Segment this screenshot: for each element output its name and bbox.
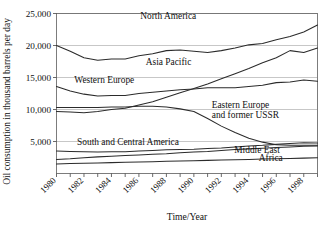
ytick-label-20000: 20,000	[26, 41, 52, 51]
series-label-africa: Africa	[259, 153, 284, 163]
xtick-label-1986: 1986	[121, 175, 141, 195]
xtick-label-1990: 1990	[175, 175, 195, 195]
ytick-label-25000: 25,000	[26, 9, 52, 19]
xtick-label-1996: 1996	[258, 175, 278, 195]
xtick-label-1988: 1988	[148, 175, 168, 195]
y-axis-title: Oil consumption in thousand barrels per …	[2, 18, 12, 185]
series-label-eastern-europe-line2: and former USSR	[212, 110, 280, 120]
xtick-label-1984: 1984	[93, 175, 113, 195]
xtick-label-1998: 1998	[285, 175, 305, 195]
series-label-western-europe: Western Europe	[74, 75, 134, 85]
xtick-label-1982: 1982	[66, 175, 86, 195]
xtick-label-1994: 1994	[230, 175, 250, 195]
ytick-label-5000: 5,000	[30, 137, 51, 147]
series-label-north-america: North America	[140, 11, 197, 21]
series-line-north-america	[57, 25, 318, 60]
series-label-south-and-central-america: South and Central America	[77, 137, 180, 147]
series-label-asia-pacific: Asia Pacific	[146, 57, 192, 67]
chart-canvas: 5,00010,00015,00020,00025,00019801982198…	[0, 0, 326, 227]
xtick-label-1980: 1980	[38, 175, 58, 195]
oil-consumption-line-chart: 5,00010,00015,00020,00025,00019801982198…	[0, 0, 326, 227]
ytick-label-10000: 10,000	[26, 105, 52, 115]
ytick-label-15000: 15,000	[26, 73, 52, 83]
x-axis-title: Time/Year	[167, 211, 208, 222]
xtick-label-1992: 1992	[203, 175, 223, 195]
series-label-eastern-europe-and-former-ussr: Eastern Europe	[212, 100, 270, 110]
